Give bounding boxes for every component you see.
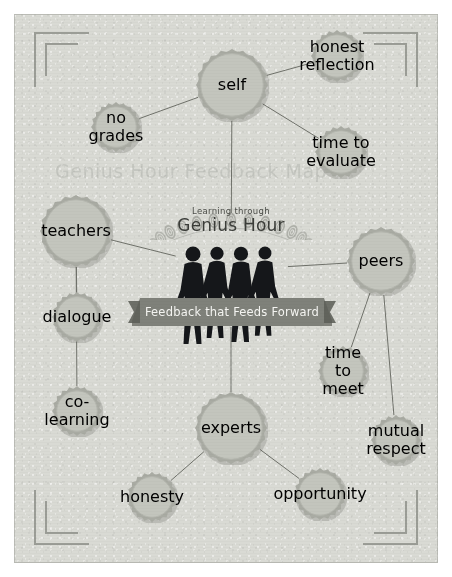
node-cap-teachers — [39, 194, 113, 268]
node-cap-experts — [194, 391, 268, 465]
link-peers-to-mutual-respect — [384, 295, 394, 415]
node-cap-co-learning — [51, 385, 103, 437]
mind-map-canvas: Genius Hour Feedback Map — [0, 0, 452, 577]
feedback-banner: Feedback that Feeds Forward — [128, 297, 336, 327]
link-self-to-no-grades — [140, 97, 199, 118]
node-honest-reflection[interactable]: honest reflection — [310, 29, 364, 83]
link-center-to-peers — [288, 263, 347, 267]
node-self[interactable]: self — [195, 48, 269, 122]
node-teachers[interactable]: teachers — [39, 194, 113, 268]
node-cap-time-to-meet — [317, 345, 369, 397]
node-co-learning[interactable]: co-learning — [51, 385, 103, 437]
node-peers[interactable]: peers — [346, 226, 416, 296]
link-self-to-honest-reflection — [267, 63, 312, 76]
node-cap-opportunity — [293, 467, 347, 521]
node-experts[interactable]: experts — [194, 391, 268, 465]
link-center-to-teachers — [111, 240, 176, 256]
node-cap-honest-reflection — [310, 29, 364, 83]
node-cap-peers — [346, 226, 416, 296]
node-cap-honesty — [126, 471, 178, 523]
node-opportunity[interactable]: opportunity — [293, 467, 347, 521]
genius-hour-logo: Learning through Genius Hour — [146, 206, 316, 235]
link-self-to-time-to-evaluate — [263, 104, 319, 138]
node-cap-no-grades — [90, 101, 142, 153]
banner-text: Feedback that Feeds Forward — [128, 297, 336, 327]
node-dialogue[interactable]: dialogue — [51, 291, 103, 343]
node-mutual-respect[interactable]: mutual respect — [370, 414, 422, 466]
node-cap-mutual-respect — [370, 414, 422, 466]
node-no-grades[interactable]: no grades — [90, 101, 142, 153]
node-honesty[interactable]: honesty — [126, 471, 178, 523]
link-peers-to-time-to-meet — [351, 293, 370, 347]
node-cap-self — [195, 48, 269, 122]
node-cap-dialogue — [51, 291, 103, 343]
node-time-to-evaluate[interactable]: time to evaluate — [314, 125, 368, 179]
node-cap-time-to-evaluate — [314, 125, 368, 179]
link-center-to-self — [231, 121, 232, 213]
node-time-to-meet[interactable]: time to meet — [317, 345, 369, 397]
logo-title: Genius Hour — [146, 215, 316, 235]
